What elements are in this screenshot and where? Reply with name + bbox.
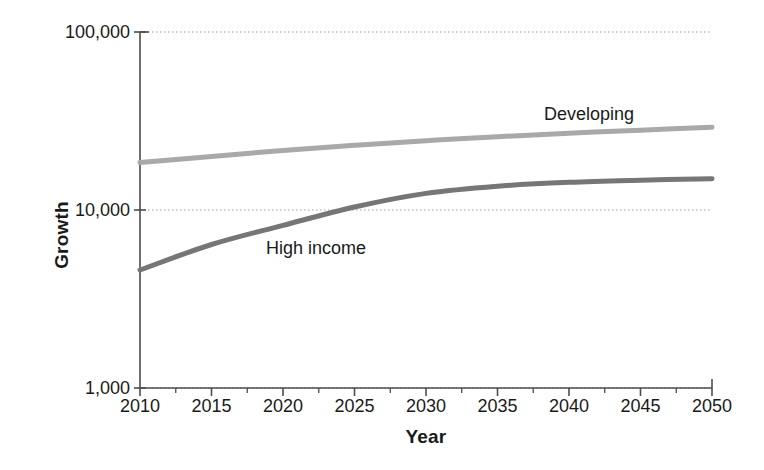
axis-tick-marks (134, 32, 712, 396)
x-tick-label: 2015 (172, 396, 252, 416)
x-tick-label: 2025 (315, 396, 395, 416)
series-lines (140, 127, 712, 270)
x-tick-label: 2020 (243, 396, 323, 416)
x-tick-label: 2035 (458, 396, 538, 416)
x-tick-label: 2045 (601, 396, 681, 416)
x-tick-label: 2040 (529, 396, 609, 416)
series-label-developing: Developing (544, 104, 634, 124)
y-tick-label: 1,000 (10, 379, 130, 397)
y-tick-label: 100,000 (10, 23, 130, 41)
gridline-group (140, 32, 712, 388)
y-tick-label: 10,000 (10, 201, 130, 219)
x-tick-label: 2030 (386, 396, 466, 416)
x-axis-title: Year (140, 426, 712, 448)
axis-spines (140, 32, 712, 388)
chart-container: 100,00010,0001,000 201020152020202520302… (0, 0, 764, 470)
x-tick-label: 2050 (672, 396, 752, 416)
series-label-high-income: High income (266, 238, 366, 258)
x-tick-label: 2010 (100, 396, 180, 416)
series-line-high-income (140, 179, 712, 270)
series-line-developing (140, 127, 712, 162)
axis-spine-left-bottom (140, 32, 712, 388)
